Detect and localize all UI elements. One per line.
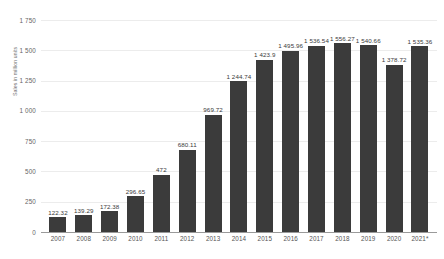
bar-slot: 122.32: [45, 20, 71, 232]
x-axis-label: 2013: [200, 235, 226, 242]
bar-slot: 172.38: [97, 20, 123, 232]
y-tick-label-1250: 1 250: [19, 77, 36, 84]
x-axis-label: 2010: [123, 235, 149, 242]
bar[interactable]: [179, 150, 196, 232]
bar-value-label: 1 536.54: [304, 37, 329, 44]
bar[interactable]: [386, 65, 403, 232]
bar[interactable]: [205, 115, 222, 232]
x-axis-label: 2019: [355, 235, 381, 242]
bar-slot: 139.29: [71, 20, 97, 232]
bar-value-label: 1 378.72: [382, 56, 407, 63]
bar-slot: 296.65: [123, 20, 149, 232]
bar-value-label: 680.11: [178, 141, 197, 148]
x-axis-label: 2016: [278, 235, 304, 242]
bar-slot: 1 244.74: [226, 20, 252, 232]
bar[interactable]: [308, 46, 325, 232]
bar[interactable]: [127, 196, 144, 232]
bar-slot: 1 556.27: [329, 20, 355, 232]
bar[interactable]: [282, 51, 299, 232]
bar-slot: 1 535.36: [407, 20, 433, 232]
bar-value-label: 1 495.96: [278, 42, 303, 49]
y-tick-label-750: 750: [25, 138, 36, 145]
x-axis-label: 2015: [252, 235, 278, 242]
bar[interactable]: [153, 175, 170, 232]
y-tick-label-1000: 1 000: [19, 107, 36, 114]
x-axis-label: 2021*: [407, 235, 433, 242]
y-tick-label-0: 0: [32, 229, 36, 236]
bar-value-label: 472: [156, 166, 167, 173]
bar-series: 122.32139.29172.38296.65472680.11969.721…: [41, 20, 437, 232]
bar-slot: 1 495.96: [278, 20, 304, 232]
x-axis-label: 2018: [329, 235, 355, 242]
bar-slot: 472: [148, 20, 174, 232]
y-axis-title: Sales in million units: [12, 0, 18, 96]
bar-value-label: 1 423.9: [254, 51, 275, 58]
y-gridline-0: 0: [41, 232, 437, 233]
plot-area: Sales in million units 0 250 500 750 1 0…: [41, 20, 437, 232]
x-axis-label: 2020: [381, 235, 407, 242]
bar[interactable]: [75, 215, 92, 232]
bar-slot: 969.72: [200, 20, 226, 232]
bar-slot: 680.11: [174, 20, 200, 232]
bar-value-label: 139.29: [74, 207, 94, 214]
bar-value-label: 1 244.74: [226, 73, 251, 80]
bar[interactable]: [360, 45, 377, 232]
bar-value-label: 1 535.36: [408, 38, 433, 45]
x-axis-label: 2014: [226, 235, 252, 242]
bar-chart: Sales in million units 0 250 500 750 1 0…: [0, 0, 444, 259]
bar-value-label: 1 540.66: [356, 37, 381, 44]
y-tick-label-250: 250: [25, 198, 36, 205]
bar[interactable]: [411, 46, 428, 232]
y-tick-label-500: 500: [25, 168, 36, 175]
bar-value-label: 296.65: [126, 188, 146, 195]
x-axis-label: 2017: [304, 235, 330, 242]
x-axis-label: 2012: [174, 235, 200, 242]
bar[interactable]: [334, 43, 351, 232]
bar-slot: 1 423.9: [252, 20, 278, 232]
bar[interactable]: [101, 211, 118, 232]
bar-slot: 1 540.66: [355, 20, 381, 232]
bar[interactable]: [49, 217, 66, 232]
x-axis-label: 2009: [97, 235, 123, 242]
x-axis-label: 2008: [71, 235, 97, 242]
bar-value-label: 172.38: [100, 203, 120, 210]
x-axis-label: 2007: [45, 235, 71, 242]
bar-value-label: 122.32: [48, 209, 68, 216]
bar-value-label: 969.72: [203, 106, 223, 113]
y-tick-label-1500: 1 500: [19, 47, 36, 54]
y-tick-label-1750: 1 750: [19, 17, 36, 24]
x-axis-labels: 2007200820092010201120122013201420152016…: [41, 235, 437, 242]
bar[interactable]: [230, 81, 247, 232]
x-axis-label: 2011: [148, 235, 174, 242]
bar-slot: 1 378.72: [381, 20, 407, 232]
bar-slot: 1 536.54: [304, 20, 330, 232]
bar-value-label: 1 556.27: [330, 35, 355, 42]
bar[interactable]: [256, 60, 273, 232]
